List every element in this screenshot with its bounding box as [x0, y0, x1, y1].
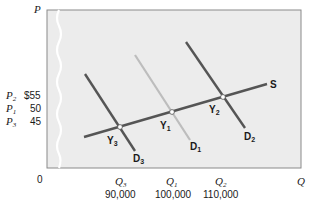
x-axis-label: Q [297, 176, 305, 187]
y-tick-value-p3: 45 [30, 117, 41, 127]
x-tick-value-q2: 110,000 [203, 190, 238, 200]
origin-label: 0 [37, 175, 43, 185]
x-tick-symbol-q1: Q1 [166, 176, 177, 189]
y-tick-value-p1: 50 [30, 104, 41, 114]
y-tick-value-p2: $55 [24, 91, 41, 101]
equilibrium-point-y2 [221, 95, 226, 100]
chart-canvas: S Y3 Y1 Y2 D3 D1 D2 [0, 0, 309, 204]
x-tick-symbol-q3: Q3 [115, 176, 126, 189]
y-axis-label: P [34, 4, 41, 15]
label-s: S [270, 79, 277, 90]
y-tick-symbol-p3: P3 [6, 116, 16, 129]
x-tick-symbol-q2: Q2 [215, 176, 226, 189]
x-tick-value-q1: 100,000 [155, 190, 191, 200]
x-tick-value-q3: 90,000 [105, 190, 136, 200]
plot-panel [47, 10, 301, 168]
equilibrium-point-y1 [170, 110, 175, 115]
equilibrium-point-y3 [118, 125, 123, 130]
